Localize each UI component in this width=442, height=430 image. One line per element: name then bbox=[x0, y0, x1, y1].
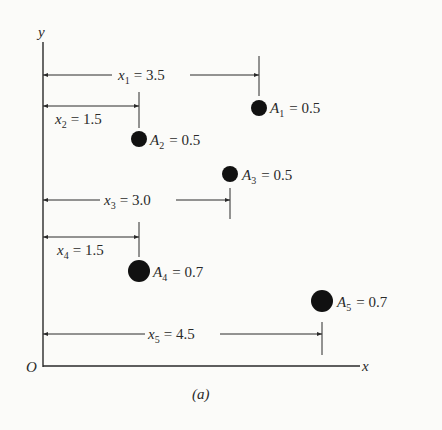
label-x3: x3= 3.0 bbox=[103, 192, 151, 211]
label-x2: x2= 1.5 bbox=[54, 111, 102, 130]
dimension-x2: x2= 1.5 bbox=[43, 92, 139, 130]
origin-label: O bbox=[26, 359, 37, 375]
x-axis-label: x bbox=[361, 358, 369, 374]
area-distribution-diagram: y x O x1= 3.5 A1= 0.5 x2= 1.5 A2= 0.5 A3… bbox=[0, 0, 442, 430]
label-a3: A3= 0.5 bbox=[241, 167, 292, 186]
dimension-x3: x3= 3.0 bbox=[43, 188, 230, 219]
area-dot-a2 bbox=[131, 131, 147, 147]
diagram-canvas: y x O x1= 3.5 A1= 0.5 x2= 1.5 A2= 0.5 A3… bbox=[0, 0, 442, 430]
y-axis-label: y bbox=[36, 24, 45, 40]
dimension-x5: x5= 4.5 bbox=[43, 322, 322, 355]
area-dot-a5 bbox=[311, 290, 333, 312]
label-a5: A5= 0.7 bbox=[336, 294, 388, 313]
label-x4: x4= 1.5 bbox=[56, 242, 104, 261]
area-dot-a1 bbox=[251, 100, 267, 116]
area-dot-a3 bbox=[222, 166, 238, 182]
label-x1: x1= 3.5 bbox=[117, 67, 165, 86]
label-a2: A2= 0.5 bbox=[149, 132, 200, 151]
area-dot-a4 bbox=[128, 260, 150, 282]
dimension-x1: x1= 3.5 bbox=[43, 56, 259, 96]
figure-caption: (a) bbox=[192, 386, 210, 403]
dimension-x4: x4= 1.5 bbox=[43, 222, 139, 261]
label-a4: A4= 0.7 bbox=[152, 264, 204, 283]
label-a1: A1= 0.5 bbox=[269, 100, 320, 119]
label-x5: x5= 4.5 bbox=[147, 326, 195, 345]
